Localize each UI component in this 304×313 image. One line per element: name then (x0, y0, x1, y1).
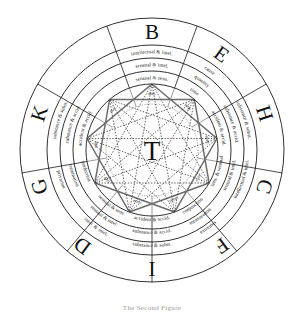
band-label: perfection (81, 161, 93, 183)
core-label-4: prop. (168, 195, 179, 203)
band-label: time (189, 86, 201, 97)
spoke-6 (22, 161, 87, 172)
outer-letter-G: G (26, 176, 54, 198)
band-label: accident & accid. (76, 109, 93, 146)
band-B-2: sensual & sens. (135, 74, 169, 82)
band-H-2: accident & accid. (211, 109, 228, 146)
band-B-0: intellectual & intel. (131, 48, 174, 56)
band-label: sensual & sens. (135, 74, 169, 82)
band-F-0: extremes (199, 219, 218, 235)
spoke-2 (217, 161, 282, 172)
outer-letter-C: C (251, 176, 278, 197)
core-label-1: beg. (184, 102, 193, 111)
band-B-1: sensual & intel. (135, 61, 170, 69)
band-G-2: perfection (81, 161, 93, 183)
band-C-1: sensual & intel. (221, 159, 237, 191)
band-label: privation (56, 170, 68, 190)
band-K-2: accident & accid. (76, 109, 93, 146)
outer-letter-B: B (145, 20, 159, 44)
inner-spoke-6 (87, 158, 107, 161)
lullian-wheel-figure: BEHCFIDGK intellectual & intel.sensual &… (0, 0, 304, 313)
band-label: sensual & intel. (221, 159, 237, 191)
core-label-0: diff. (148, 91, 156, 96)
center-letter: T (144, 136, 161, 166)
outer-letter-I: I (149, 257, 156, 281)
outer-letter-K: K (26, 102, 54, 124)
band-G-1: termination (68, 163, 81, 188)
band-label: accident & accid. (211, 109, 228, 146)
band-label: quantity (193, 73, 211, 88)
band-C-2: sens. & sensual (209, 155, 224, 187)
band-E-1: quantity (193, 73, 211, 88)
band-label: sensual & intel. (135, 61, 170, 69)
core-label-2: spec. (204, 135, 211, 145)
outer-letter-E: E (209, 41, 233, 68)
core-label-7: sub. (93, 140, 99, 148)
inner-spoke-2 (197, 158, 217, 161)
star-triangle-2 (110, 99, 217, 212)
band-G-0: privation (56, 170, 68, 190)
band-label: intellectual & intel. (131, 48, 174, 56)
core-label-8: maj. (108, 105, 117, 114)
wheel-svg: BEHCFIDGK intellectual & intel.sensual &… (0, 0, 304, 313)
outer-letter-F: F (210, 233, 234, 259)
outer-letter-H: H (251, 102, 279, 124)
band-label: termination (68, 163, 81, 188)
figure-caption: The Second Figure (0, 304, 304, 312)
band-label: sens. & sensual (209, 155, 224, 187)
band-E-2: time (189, 86, 201, 97)
band-label: extremes (199, 219, 218, 235)
